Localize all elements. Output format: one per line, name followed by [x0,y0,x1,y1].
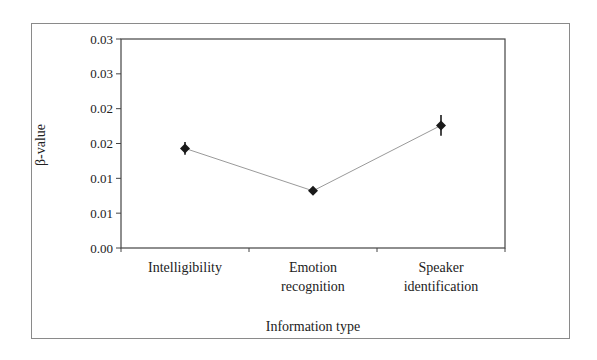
line-chart: 0.000.010.010.020.020.030.03 Intelligibi… [0,0,597,360]
x-axis-title: Information type [266,319,360,334]
y-axis: 0.000.010.010.020.020.030.03 [90,32,121,256]
y-axis-title: β-value [33,124,48,166]
y-tick-label: 0.01 [90,206,113,221]
x-axis: IntelligibilityEmotionrecognitionSpeaker… [121,248,505,294]
y-tick-label: 0.02 [90,101,113,116]
y-tick-label: 0.02 [90,136,113,151]
y-tick-label: 0.03 [90,66,113,81]
plot-area [121,39,505,248]
x-category-label: Intelligibility [148,260,222,275]
x-category-label: Emotionrecognition [281,260,345,294]
y-tick-label: 0.01 [90,171,113,186]
x-category-label: Speakeridentification [404,260,479,294]
y-tick-label: 0.00 [90,241,113,256]
y-tick-label: 0.03 [90,32,113,47]
